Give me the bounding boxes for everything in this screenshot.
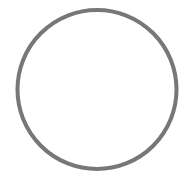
- circle-outline: [18, 10, 177, 169]
- diagram-canvas: [0, 0, 194, 179]
- circle-figure: [0, 0, 194, 179]
